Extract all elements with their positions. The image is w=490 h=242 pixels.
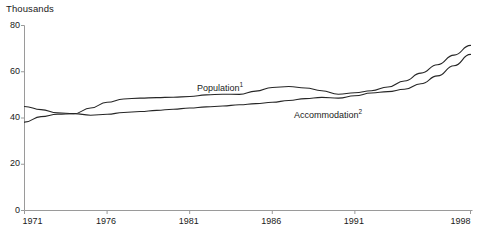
series-label-text: Accommodation [294, 110, 359, 120]
y-axis-tick-label: 40 [4, 112, 20, 122]
y-axis-tick-label: 20 [4, 158, 20, 168]
footnote-marker: 2 [359, 108, 363, 115]
series-line-population [25, 45, 471, 113]
y-axis-tick-label: 0 [4, 205, 20, 215]
footnote-marker: 1 [240, 81, 244, 88]
line-chart: Thousands 020406080 19711976198119861991… [0, 0, 490, 242]
plot-area [0, 0, 490, 242]
series-annotation-population: Population1 [197, 83, 243, 93]
x-axis-tick-label: 1986 [261, 216, 281, 226]
series-annotation-accommodation: Accommodation2 [294, 110, 362, 120]
x-axis-tick-label: 1991 [344, 216, 364, 226]
x-axis-tick-label: 1998 [451, 216, 471, 226]
series-line-accommodation [25, 54, 471, 122]
series-label-text: Population [197, 83, 240, 93]
y-axis-tick-label: 80 [4, 20, 20, 30]
x-axis-tick-label: 1976 [96, 216, 116, 226]
y-axis-tick-label: 60 [4, 66, 20, 76]
x-axis-tick-label: 1981 [179, 216, 199, 226]
x-axis-tick-label: 1971 [23, 216, 43, 226]
